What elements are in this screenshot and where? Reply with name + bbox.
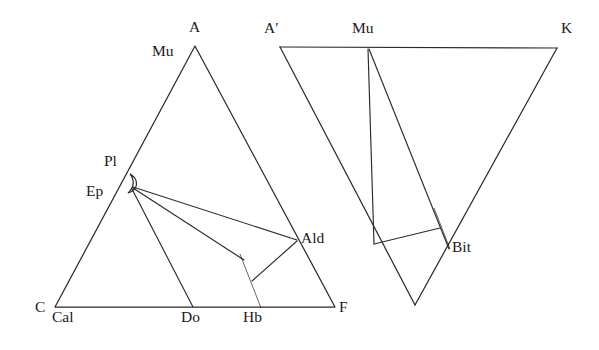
label-vertex-K: K <box>561 19 573 36</box>
akf-top-edge <box>280 47 557 48</box>
tieline-ald-hb <box>252 241 297 281</box>
label-vertex-F: F <box>339 298 348 315</box>
label-point-hb: Hb <box>243 308 262 325</box>
label-vertex-A: A <box>189 18 201 35</box>
label-point-mu-right: Mu <box>352 19 374 36</box>
chemographic-diagram-figure: A C F Mu Pl Ep Ald Cal Do Hb <box>0 0 599 350</box>
akf-right-edge <box>415 48 557 305</box>
left-panel-acf-triangle: A C F Mu Pl Ep Ald Cal Do Hb <box>35 18 348 325</box>
tieline-ep-ald <box>133 187 297 240</box>
label-point-pl: Pl <box>104 152 117 169</box>
hb-solid-solution-bar <box>240 254 261 308</box>
label-point-bit: Bit <box>452 238 472 255</box>
tieline-mu-vertical <box>368 49 374 244</box>
tieline-node-bit <box>374 228 440 244</box>
label-point-cal: Cal <box>52 308 74 325</box>
label-point-ep: Ep <box>86 182 103 199</box>
label-point-do: Do <box>181 308 200 325</box>
figure-canvas: A C F Mu Pl Ep Ald Cal Do Hb <box>0 0 599 350</box>
label-vertex-C: C <box>35 298 45 315</box>
label-point-mu-left: Mu <box>152 42 174 59</box>
label-vertex-A-prime: A′ <box>264 19 279 36</box>
akf-left-edge <box>280 47 415 305</box>
tieline-mu-bit <box>369 49 449 249</box>
acf-triangle-outline <box>55 46 335 307</box>
label-point-ald: Ald <box>301 229 325 246</box>
